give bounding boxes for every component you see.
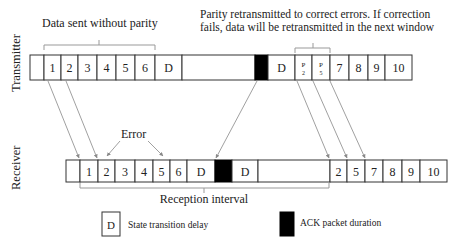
receiver-row: 1 2 3 4 5 6 D D 2 5 7 8 9 10	[66, 160, 447, 182]
rx-label-2: 2	[104, 165, 110, 179]
error-label: Error	[121, 127, 146, 141]
arrow-tx-1	[66, 81, 97, 158]
legend-delay-symbol: D	[107, 219, 115, 231]
rx-label-7: 7	[371, 165, 377, 179]
tx-label-parity-p2: P	[302, 61, 306, 69]
annotation-parity-line2: fails, data will be retransmitted in the…	[200, 21, 435, 34]
tx-label-3: 3	[85, 61, 91, 75]
rx-label-8: 8	[390, 165, 396, 179]
rx-label-5: 5	[159, 165, 165, 179]
arrow-parity-2	[297, 81, 329, 158]
rx-label-delay-2: D	[241, 165, 250, 179]
error-arrow-2	[107, 141, 120, 156]
legend-ack-label: ACK packet duration	[300, 218, 382, 228]
reception-interval-label: Reception interval	[160, 192, 249, 206]
tx-label-10: 10	[393, 61, 405, 75]
arrow-tx-start	[48, 81, 79, 158]
transmitter-label: Transmitter	[9, 33, 23, 92]
legend: D State transition delay ACK packet dura…	[102, 212, 382, 236]
rx-label-10: 10	[428, 165, 440, 179]
rx-label-delay: D	[197, 165, 206, 179]
transmitter-row: 1 2 3 4 5 6 D D P 2 P 5 7 8 9 10	[30, 55, 412, 80]
tx-blank-cell	[30, 55, 44, 80]
transmission-arrows	[48, 81, 365, 158]
rx-label-1: 1	[86, 165, 92, 179]
tx-label-6: 6	[142, 61, 148, 75]
tx-label-parity-sub5: 5	[320, 70, 323, 76]
tx-label-9: 9	[374, 61, 380, 75]
tx-label-delay-2: D	[277, 61, 286, 75]
bracket-data-without-parity	[44, 40, 155, 50]
legend-ack-swatch	[280, 212, 294, 236]
legend-delay-label: State transition delay	[128, 220, 208, 230]
rx-label-9: 9	[408, 165, 414, 179]
rx-idle-cell	[258, 160, 330, 182]
tx-ack-cell	[255, 55, 268, 80]
tx-idle-cell	[182, 55, 255, 80]
annotation-parity-line1: Parity retransmitted to correct errors. …	[200, 8, 430, 21]
tx-label-4: 4	[104, 61, 110, 75]
tx-label-1: 1	[50, 61, 56, 75]
receiver-label: Receiver	[9, 145, 23, 190]
tx-label-7: 7	[337, 61, 343, 75]
tx-label-parity-p5: P	[319, 61, 323, 69]
arrow-parity-5	[313, 81, 347, 158]
rx-blank-cell	[66, 160, 80, 182]
arrow-ack	[216, 81, 257, 158]
tx-label-delay: D	[164, 61, 173, 75]
rx-label-5-retx: 5	[353, 165, 359, 179]
rx-label-6: 6	[176, 165, 182, 179]
tx-label-8: 8	[356, 61, 362, 75]
annotation-data-without-parity: Data sent without parity	[42, 16, 158, 30]
tx-label-parity-sub2: 2	[302, 70, 305, 76]
rx-label-4: 4	[141, 165, 147, 179]
rx-ack-cell	[215, 160, 232, 182]
arq-timing-diagram: Data sent without parity Parity retransm…	[0, 0, 460, 248]
bracket-parity	[295, 43, 330, 53]
rx-label-2-retx: 2	[336, 165, 342, 179]
arrow-data-7	[330, 81, 365, 158]
error-arrow-5	[148, 141, 163, 156]
tx-label-5: 5	[123, 61, 129, 75]
rx-label-3: 3	[122, 165, 128, 179]
tx-label-2: 2	[67, 61, 73, 75]
